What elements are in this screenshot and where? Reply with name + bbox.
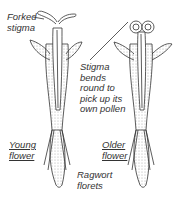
ragwort-florets-label: Ragwort florets: [77, 170, 112, 191]
label-line: stigma: [7, 23, 37, 34]
label-line: Ragwort: [77, 170, 112, 181]
label-line: own pollen: [80, 104, 125, 115]
label-line: flower: [9, 151, 36, 162]
forked-stigma-label: Forked stigma: [7, 12, 37, 33]
label-line: Forked: [7, 12, 37, 23]
label-line: Stigma: [80, 62, 125, 73]
young-flower-drawing: [30, 11, 82, 187]
older-flower-label: Older flower: [102, 140, 127, 161]
label-line: Young: [9, 140, 36, 151]
label-line: flower: [102, 151, 127, 162]
label-line: Older: [102, 140, 127, 151]
label-line: florets: [77, 181, 112, 192]
young-flower-label: Young flower: [9, 140, 36, 161]
stigma-bends-label: Stigma bends round to pick up its own po…: [80, 62, 125, 115]
label-line: round to: [80, 83, 125, 94]
